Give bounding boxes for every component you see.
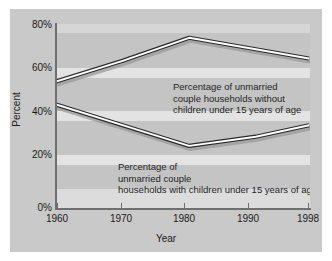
x-tick-mark-2 [184,203,185,209]
y-tick-label-4: 0% [8,203,52,213]
annotation-lower-line2: unmarried couple [118,173,191,184]
x-tick-label-0: 1960 [46,213,68,224]
y-axis-title: Percent [11,80,22,140]
x-axis-spine [55,208,311,210]
x-tick-mark-0 [57,203,58,209]
x-tick-label-3: 1990 [237,213,259,224]
x-tick-mark-1 [121,203,122,209]
x-axis-title: Year [0,233,332,244]
annotation-with-children: Percentage of unmarried couple household… [118,161,310,196]
x-axis-tick-labels: 19601970198019901998 [0,213,332,229]
x-tick-mark-4 [308,203,309,209]
y-axis-spine [55,23,57,210]
annotation-upper-line3: children under 15 years of age [173,104,301,115]
x-tick-mark-3 [248,203,249,209]
annotation-upper-line2: couple households without [173,93,285,104]
y-tick-label-0: 80% [8,20,52,30]
x-tick-label-2: 1980 [173,213,195,224]
y-tick-label-3: 20% [8,150,52,160]
chart-figure: Percentage of unmarried couple household… [0,0,332,261]
y-tick-label-1: 60% [8,63,52,73]
annotation-without-children: Percentage of unmarried couple household… [173,81,301,116]
plot-area: Percentage of unmarried couple household… [56,24,310,209]
annotation-upper-line1: Percentage of unmarried [173,81,278,92]
series-shadow-0 [57,40,310,84]
annotation-lower-line1: Percentage of [118,161,177,172]
x-tick-label-1: 1970 [110,213,132,224]
annotation-lower-line3: households with children under 15 years … [118,184,310,195]
x-tick-label-4: 1998 [297,213,319,224]
